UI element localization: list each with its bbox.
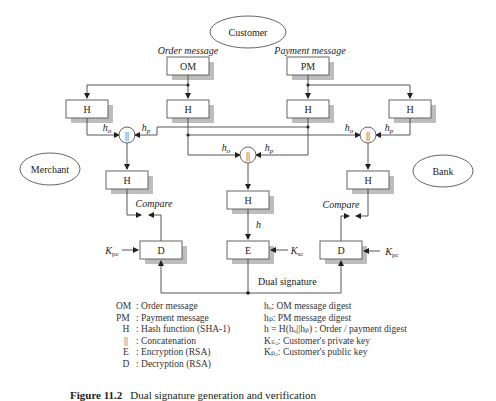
ho-label: ho <box>345 122 354 135</box>
ho-label: ho <box>103 122 112 135</box>
legend-item: PM: Payment message <box>116 313 230 325</box>
legend-item: D: Decryption (RSA) <box>116 359 230 371</box>
hash-text: H <box>83 104 90 115</box>
ksc-label: Ksc <box>290 245 304 258</box>
ho-label: ho <box>222 142 231 155</box>
hash-text: H <box>184 104 191 115</box>
kpc-label: Kpc <box>384 246 398 259</box>
payment-message-label: Payment message <box>273 45 346 56</box>
pm-text: PM <box>301 61 316 72</box>
customer-label: Customer <box>229 27 269 38</box>
legend-item: hₚ: PM message digest <box>264 313 407 325</box>
hp-label: hp <box>265 142 274 155</box>
h-label: h <box>256 219 261 230</box>
encrypt-text: E <box>245 245 251 256</box>
legend-item: OM: Order message <box>116 301 230 313</box>
legend-item: Kₚ꜀: Customer's public key <box>264 347 407 359</box>
legend-item: E: Encryption (RSA) <box>116 347 230 359</box>
hp-label: hp <box>385 122 394 135</box>
legend-item: h = H(hₒ||hₚ) : Order / payment digest <box>264 324 407 336</box>
kpc-label: Kpc <box>104 245 118 258</box>
concat-text: || <box>366 130 370 141</box>
hash-text: H <box>406 104 413 115</box>
concat-text: || <box>125 130 129 141</box>
caption-text: Dual signature generation and verificati… <box>130 389 316 401</box>
decrypt-text: D <box>337 245 344 256</box>
caption-number: Figure 11.2 <box>70 389 122 401</box>
hash-text: H <box>304 104 311 115</box>
legend-right: hₒ: OM message digest hₚ: PM message dig… <box>264 301 407 359</box>
legend-item: H: Hash function (SHA-1) <box>116 324 230 336</box>
hash-text: H <box>244 195 251 206</box>
legend-item: hₒ: OM message digest <box>264 301 407 313</box>
dual-signature-label: Dual signature <box>258 276 317 287</box>
hash-text: H <box>364 175 371 186</box>
bank-label: Bank <box>432 166 453 177</box>
legend-left: OM: Order message PM: Payment message H:… <box>116 301 230 370</box>
concat-text: || <box>246 150 250 161</box>
hp-label: hp <box>142 122 151 135</box>
compare-label-merchant: Compare <box>136 198 173 209</box>
hash-text: H <box>123 175 130 186</box>
decrypt-text: D <box>157 245 164 256</box>
compare-label-bank: Compare <box>323 199 360 210</box>
legend-item: ||: Concatenation <box>116 336 230 348</box>
legend-item: Kₛ꜀: Customer's private key <box>264 336 407 348</box>
merchant-label: Merchant <box>31 164 70 175</box>
figure-caption: Figure 11.2Dual signature generation and… <box>70 389 316 401</box>
order-message-label: Order message <box>158 45 219 56</box>
om-text: OM <box>180 61 196 72</box>
